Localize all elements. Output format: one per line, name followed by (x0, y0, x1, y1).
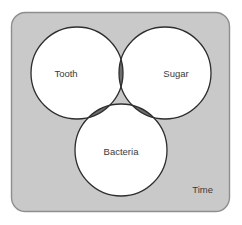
venn-diagram-canvas: Tooth Sugar Bacteria Time (0, 0, 242, 225)
frame-label-time: Time (192, 184, 213, 195)
set-label-tooth: Tooth (54, 68, 77, 79)
set-label-bacteria: Bacteria (104, 146, 140, 157)
set-label-sugar: Sugar (163, 68, 188, 79)
venn-diagram-figure: Tooth Sugar Bacteria Time (0, 0, 242, 225)
